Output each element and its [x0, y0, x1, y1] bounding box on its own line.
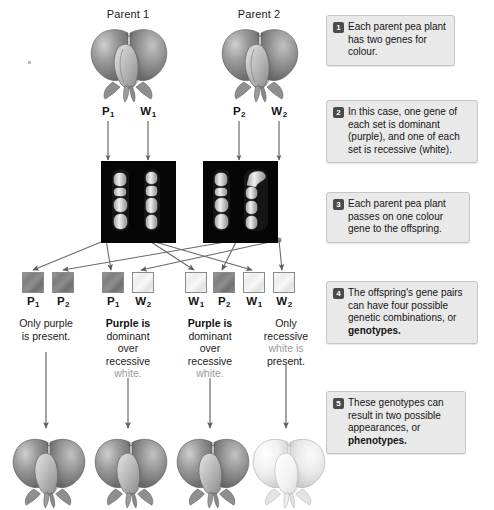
gene-subscript: 1 — [115, 300, 119, 309]
gene-letter: P — [107, 295, 115, 307]
offspring-1-label-P2: P2 — [50, 295, 76, 309]
gene-subscript: 1 — [110, 110, 114, 119]
gene-subscript: 1 — [258, 300, 262, 309]
offspring-4-chip-W2 — [273, 272, 295, 293]
callout-4: 4 The offspring's gene pairs can have fo… — [326, 281, 478, 344]
callout-5-badge: 5 — [333, 398, 344, 409]
desc-line: recessive — [167, 355, 253, 368]
desc-line: white. — [85, 367, 171, 380]
offspring-2-flower — [92, 434, 170, 508]
parent-1-flower — [88, 24, 170, 102]
callout-1-badge: 1 — [333, 22, 344, 33]
offspring-4-label-W1: W1 — [241, 295, 267, 309]
callout-3: 3 Each parent pea plant passes on one co… — [326, 192, 470, 243]
parent-1-gene-W1: W1 — [135, 105, 161, 119]
offspring-1-flower — [10, 434, 88, 508]
offspring-3-label-W1: W1 — [183, 295, 209, 309]
diagram-canvas: Parent 1 Parent 2 — [0, 0, 494, 510]
gene-subscript: 2 — [65, 300, 69, 309]
gene-letter: P — [57, 295, 65, 307]
callout-1-text: Each parent pea plant has two genes for … — [348, 21, 448, 59]
offspring-3-description: Purple is dominant over recessive white. — [167, 317, 253, 380]
gene-letter: W — [276, 295, 287, 307]
callout-4-text: The offspring's gene pairs can have four… — [348, 287, 471, 337]
desc-line: white is — [243, 342, 329, 355]
callout-5-text: These genotypes can result in two possib… — [348, 397, 459, 447]
gene-subscript: 2 — [241, 110, 245, 119]
gene-letter: P — [102, 105, 110, 117]
offspring-2-label-P1: P1 — [100, 295, 126, 309]
offspring-3-chip-W1 — [185, 272, 207, 293]
callout-4-keyword: genotypes. — [348, 325, 401, 336]
offspring-4-description: Only recessive white is present. — [243, 317, 329, 367]
parent-1-title: Parent 1 — [83, 8, 173, 20]
offspring-1-label-P1: P1 — [20, 295, 46, 309]
gene-subscript: 2 — [147, 300, 151, 309]
gene-letter: P — [27, 295, 35, 307]
parent-2-chromosome-panel — [203, 161, 278, 243]
parent-1-chromosome-panel — [101, 161, 176, 243]
parent-2-gene-W2: W2 — [266, 105, 292, 119]
desc-line: present. — [243, 355, 329, 368]
parent-1-gene-P1: P1 — [95, 105, 121, 119]
desc-line: white. — [167, 367, 253, 380]
offspring-3-flower — [174, 434, 252, 508]
offspring-4-flower — [250, 434, 328, 508]
callout-3-text: Each parent pea plant passes on one colo… — [348, 198, 463, 236]
offspring-1-chip-P2 — [52, 272, 74, 293]
offspring-4-label-W2: W2 — [271, 295, 297, 309]
callout-3-badge: 3 — [333, 199, 344, 210]
gene-subscript: 1 — [152, 110, 156, 119]
desc-line: dominant — [167, 330, 253, 343]
gene-letter: P — [233, 105, 241, 117]
callout-1: 1 Each parent pea plant has two genes fo… — [326, 15, 455, 66]
gene-letter: W — [246, 295, 257, 307]
gene-subscript: 2 — [288, 300, 292, 309]
gene-letter: W — [271, 105, 282, 117]
desc-line: Only — [243, 317, 329, 330]
gene-letter: W — [188, 295, 199, 307]
offspring-1-chip-P1 — [22, 272, 44, 293]
gene-subscript: 2 — [283, 110, 287, 119]
gene-subscript: 1 — [35, 300, 39, 309]
callout-4-badge: 4 — [333, 288, 344, 299]
desc-line: Purple is — [85, 317, 171, 330]
offspring-2-chip-W2 — [132, 272, 154, 293]
desc-line: recessive — [243, 330, 329, 343]
gene-letter: W — [140, 105, 151, 117]
offspring-2-chip-P1 — [102, 272, 124, 293]
gene-letter: P — [218, 295, 226, 307]
offspring-3-chip-P2 — [213, 272, 235, 293]
offspring-2-description: Purple is dominant over recessive white. — [85, 317, 171, 380]
desc-line: is present. — [3, 330, 89, 343]
desc-line: recessive — [85, 355, 171, 368]
desc-line: dominant — [85, 330, 171, 343]
gene-subscript: 2 — [226, 300, 230, 309]
desc-line: Purple is — [167, 317, 253, 330]
parent-2-gene-P2: P2 — [226, 105, 252, 119]
offspring-2-label-W2: W2 — [130, 295, 156, 309]
offspring-3-label-P2: P2 — [211, 295, 237, 309]
offspring-4-chip-W1 — [243, 272, 265, 293]
parent-2-flower — [219, 24, 301, 102]
callout-2-text: In this case, one gene of each set is do… — [348, 106, 471, 156]
desc-line: over — [167, 342, 253, 355]
scan-speck — [28, 61, 31, 64]
parent-2-title: Parent 2 — [214, 8, 304, 20]
offspring-1-description: Only purple is present. — [3, 317, 89, 342]
callout-5-body: These genotypes can result in two possib… — [348, 397, 444, 433]
callout-5-keyword: phenotypes. — [348, 435, 407, 446]
gene-subscript: 1 — [200, 300, 204, 309]
callout-2-badge: 2 — [333, 107, 344, 118]
callout-5: 5 These genotypes can result in two poss… — [326, 391, 466, 454]
gene-letter: W — [135, 295, 146, 307]
callout-2: 2 In this case, one gene of each set is … — [326, 100, 478, 163]
desc-line: Only purple — [3, 317, 89, 330]
callout-4-body: The offspring's gene pairs can have four… — [348, 287, 463, 323]
desc-line: over — [85, 342, 171, 355]
